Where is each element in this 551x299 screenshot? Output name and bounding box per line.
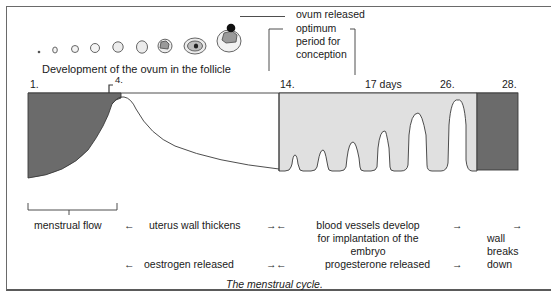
conception-label-line2: period for xyxy=(296,35,340,47)
blood-vessels-line3: embryo xyxy=(293,245,443,257)
follicle-stage-1-icon xyxy=(38,51,41,54)
arrow-left-4: ← xyxy=(276,258,287,270)
follicle-stage-3-icon xyxy=(72,46,79,53)
arrow-right-3: → xyxy=(512,219,523,231)
arrow-right-4: → xyxy=(266,258,277,270)
follicle-stage-6-icon xyxy=(137,41,148,53)
day-marker-1: 1. xyxy=(30,78,39,90)
follicle-stage-7-icon xyxy=(158,39,172,53)
follicle-sequence xyxy=(38,24,241,54)
wall-breaks-line1: wall xyxy=(487,232,505,244)
arrow-right-2: → xyxy=(452,219,463,231)
menstrual-flow-bracket xyxy=(28,203,117,215)
wall-breaks-line2: breaks xyxy=(487,245,519,257)
progesterone-label: progesterone released xyxy=(325,258,430,270)
oestrogen-label: oestrogen released xyxy=(144,258,234,270)
follicle-caption: Development of the ovum in the follicle xyxy=(42,63,231,75)
day-marker-4: 4. xyxy=(115,74,123,86)
day-marker-28: 28. xyxy=(502,78,517,90)
arrow-left-1: ← xyxy=(124,219,135,231)
figure-caption: The menstrual cycle. xyxy=(226,278,323,290)
day-marker-26: 26. xyxy=(440,78,455,90)
follicle-stage-5-icon xyxy=(113,42,123,52)
arrow-right-5: → xyxy=(452,258,463,270)
menstrual-flow-region xyxy=(28,93,121,178)
arrow-left-2: ← xyxy=(276,219,287,231)
ovum-released-label: ovum released xyxy=(296,8,365,20)
wall-breakdown-region xyxy=(477,93,518,170)
blood-vessels-line1: blood vessels develop xyxy=(293,219,443,231)
day-marker-17: 17 days xyxy=(365,78,402,90)
blood-vessels-line2: for implantation of the xyxy=(293,232,443,244)
conception-label-line3: conception xyxy=(296,48,347,60)
conception-label-line1: optimum xyxy=(296,22,336,34)
arrow-right-1: → xyxy=(266,219,277,231)
ovum-release-icon xyxy=(217,24,241,52)
uterus-wall-label: uterus wall thickens xyxy=(149,219,241,231)
follicle-stage-8-icon xyxy=(184,38,206,54)
day-marker-14: 14. xyxy=(280,78,295,90)
day-4-marker xyxy=(109,85,113,93)
blood-vessel-region xyxy=(279,93,477,171)
menstrual-flow-label: menstrual flow xyxy=(34,219,102,231)
follicle-stage-2-icon xyxy=(53,47,58,53)
follicle-stage-4-icon xyxy=(91,44,100,53)
arrow-left-3: ← xyxy=(124,258,135,270)
wall-breaks-line3: down xyxy=(487,258,512,270)
uterus-wall-curve xyxy=(112,97,279,169)
